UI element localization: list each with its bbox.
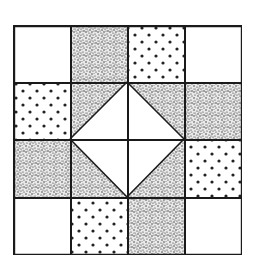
quilt-cell-2-0 xyxy=(13,139,70,197)
quilt-cell-2-3 xyxy=(184,139,241,197)
quilt-cell-0-2 xyxy=(127,25,184,82)
quilt-cell-0-3 xyxy=(184,25,241,82)
quilt-block-drawing xyxy=(13,25,242,255)
quilt-cell-3-3 xyxy=(184,197,241,254)
quilt-cell-3-1 xyxy=(70,197,127,254)
quilt-cell-1-3 xyxy=(184,82,241,139)
quilt-cell-3-2 xyxy=(127,197,184,254)
quilt-cell-0-0 xyxy=(13,25,70,82)
quilt-cell-3-0 xyxy=(13,197,70,254)
quilt-cell-1-0 xyxy=(13,82,70,139)
quilt-cell-0-1 xyxy=(70,25,127,82)
quilt-block xyxy=(13,25,242,255)
